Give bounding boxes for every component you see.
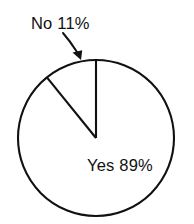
pie-label-yes: Yes 89% bbox=[87, 157, 153, 174]
pie-label-no: No 11% bbox=[31, 15, 90, 32]
no-label-arrow-shaft bbox=[63, 33, 77, 52]
no-label-arrow-head-icon bbox=[73, 50, 83, 60]
pie-chart-figure: No 11% Yes 89% bbox=[0, 0, 194, 224]
pie-chart-graphic bbox=[0, 0, 194, 224]
